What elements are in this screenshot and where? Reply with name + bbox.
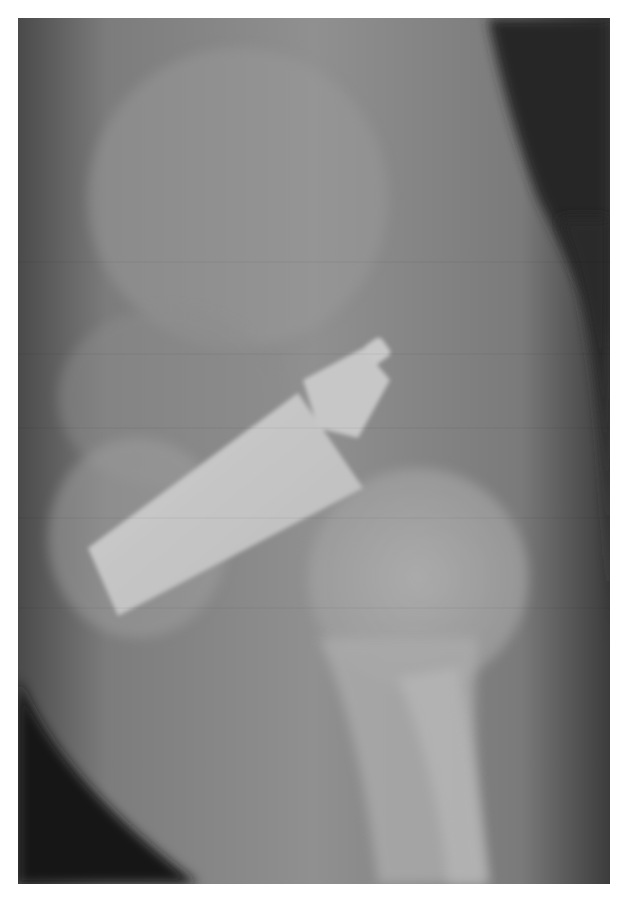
xray-image: [18, 18, 610, 884]
xray-drawing: [18, 18, 610, 884]
